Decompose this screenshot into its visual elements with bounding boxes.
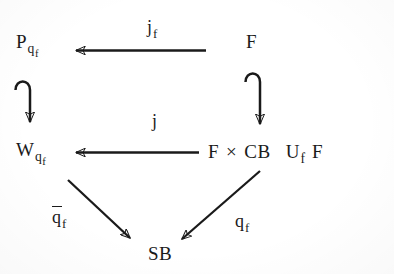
edge-label-jf-sub: f [153,26,158,41]
diagram-canvas: Pqf F Wqf F×CBUfF SB jf j qf qf [0,0,394,274]
edge-label-qbar-base: q [52,208,62,226]
node-w-subscript-f: f [42,155,46,167]
node-w-base: W [16,139,34,160]
node-sb: SB [148,244,172,263]
node-f-top: F [246,32,257,51]
diagram-edges-layer [0,0,394,274]
edge-label-qf: qf [235,212,249,235]
edge-label-qf-sub: f [245,220,250,235]
edge-label-jf: jf [147,18,157,41]
pushout-term-f2: F [312,142,323,161]
node-w: Wqf [16,140,46,166]
edge-qbar-arrow [68,180,130,238]
union-symbol: U [286,142,300,161]
edge-label-qf-base: q [235,211,245,231]
edge-label-qbar-sub: f [62,216,67,231]
node-p-subscript: qf [27,41,38,56]
node-p-base: P [16,31,27,52]
pushout-term-cb: CB [244,142,270,161]
edge-hook-right-arrow [246,73,261,124]
edge-label-j: j [152,112,158,130]
node-w-subscript: qf [34,149,45,164]
edge-label-qbar-f: qf [52,208,66,231]
node-p-subscript-f: f [34,47,38,59]
times-symbol: × [226,142,237,161]
edge-label-jf-base: j [147,17,153,37]
edge-hook-left-arrow [16,81,31,122]
node-pushout-expression: F×CBUfF [208,142,323,166]
node-w-subscript-q: q [35,149,42,164]
pushout-term-f1: F [208,142,219,161]
node-p: Pqf [16,32,38,58]
union-subscript-f: f [300,151,305,166]
